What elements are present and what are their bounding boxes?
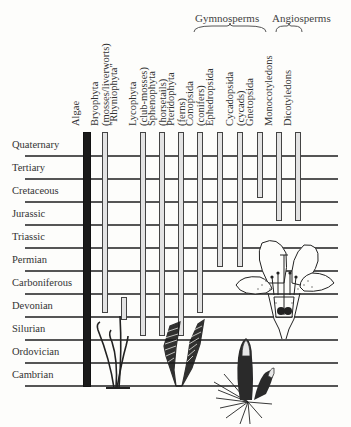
range-bar-monocotyledons: [276, 132, 282, 221]
period-label: Jurassic: [12, 208, 45, 219]
period-label: Ordovician: [12, 346, 59, 357]
range-bar-conopsida: [197, 132, 203, 313]
range-bar-pteridophyta: [178, 132, 184, 336]
period-label: Carboniferous: [12, 277, 72, 288]
range-bar-bryophyta: [102, 132, 108, 313]
period-label: Tertiary: [12, 162, 45, 173]
range-bar-dicotyledons: [295, 132, 301, 221]
period-label: Devonian: [12, 300, 53, 311]
angiosperms-brace: [274, 23, 304, 33]
period-label: Cretaceous: [12, 185, 59, 196]
period-label: Cambrian: [12, 369, 53, 380]
range-bar-sphenophyta: [159, 132, 165, 336]
period-label: Permian: [12, 254, 47, 265]
flower-section-illustration: [234, 237, 340, 341]
rhynia-plant-illustration: [92, 310, 137, 392]
range-bar-lycophyta: [140, 132, 146, 336]
fern-frond-illustration: [160, 318, 210, 388]
period-label: Triassic: [12, 231, 45, 242]
period-label: Quaternary: [12, 139, 59, 150]
range-bar-ephedropsida: [217, 132, 223, 267]
range-bar-gnetopsida: [257, 132, 263, 198]
range-bar-algae: [83, 132, 91, 387]
gymnosperms-brace: [192, 23, 268, 33]
period-label: Silurian: [12, 323, 45, 334]
club-moss-cone-illustration: [210, 338, 290, 427]
